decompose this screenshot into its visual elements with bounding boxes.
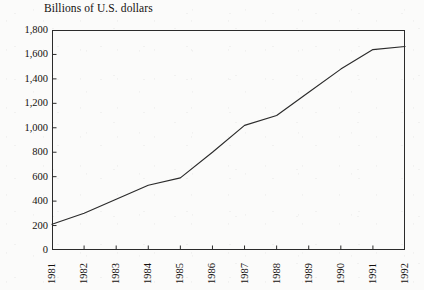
x-tick-label: 1988 xyxy=(272,263,282,284)
x-tick-label: 1992 xyxy=(400,263,410,284)
x-tick-label: 1985 xyxy=(175,263,185,284)
x-tick-label: 1984 xyxy=(143,263,153,284)
x-tick-label: 1986 xyxy=(207,263,217,284)
x-tick-label: 1987 xyxy=(240,263,250,284)
x-tick-label: 1990 xyxy=(336,263,346,284)
x-axis: 1981198219831984198519861987198819891990… xyxy=(0,0,424,290)
x-tick-label: 1989 xyxy=(304,263,314,284)
x-tick-label: 1981 xyxy=(47,263,57,284)
x-tick-label: 1991 xyxy=(368,263,378,284)
chart-screenshot: Billions of U.S. dollars 1,8001,6001,400… xyxy=(0,0,424,290)
x-tick-label: 1982 xyxy=(79,263,89,284)
x-tick-label: 1983 xyxy=(111,263,121,284)
